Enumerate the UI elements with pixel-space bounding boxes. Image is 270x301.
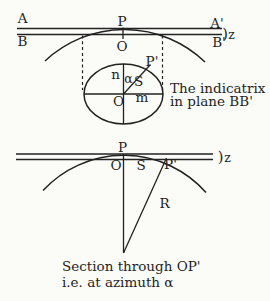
label-R-radius: R — [159, 195, 170, 211]
bottom-diagram: P O S P' ) z R Section through OP' i.e. … — [16, 139, 231, 290]
label-O-top: O — [116, 38, 127, 54]
top-caption-line2: in plane BB' — [170, 93, 253, 109]
label-B: B — [18, 33, 28, 49]
z-axis-label-bottom: z — [224, 150, 231, 165]
label-S-bottom: S — [136, 157, 145, 173]
label-O-bottom: O — [110, 157, 121, 173]
z-axis-paren-bottom: ) — [218, 149, 224, 165]
section-surface-arc — [43, 155, 206, 192]
bottom-caption-line1: Section through OP' — [62, 258, 201, 274]
label-n-axis: n — [111, 66, 120, 82]
label-m-axis: m — [136, 89, 149, 105]
figure-canvas: A P A' B O B' ) z n α S P' O m The indic… — [0, 0, 270, 301]
label-A: A — [17, 10, 28, 26]
label-P-bottom: P — [118, 139, 127, 155]
label-S-ellipse: S — [134, 73, 143, 89]
label-P-top: P — [117, 13, 126, 29]
indicatrix-figure-svg: A P A' B O B' ) z n α S P' O m The indic… — [0, 0, 270, 301]
z-axis-paren-top: ) — [222, 26, 228, 42]
label-O-ellipse: O — [113, 93, 124, 109]
top-diagram: A P A' B O B' ) z n α S P' O m The indic… — [17, 10, 266, 124]
label-alpha-angle: α — [124, 71, 133, 86]
label-P-prime-ellipse: P' — [146, 53, 159, 69]
z-axis-label-top: z — [228, 27, 235, 42]
label-P-prime-bottom: P' — [164, 156, 177, 172]
bottom-caption-line2: i.e. at azimuth α — [62, 274, 173, 290]
